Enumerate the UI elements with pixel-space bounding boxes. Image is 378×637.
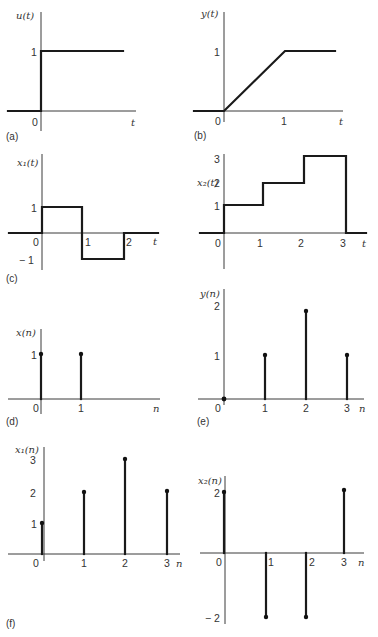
- stem-marker: [79, 352, 83, 356]
- panel-f-x2n: x₂(n) 2 − 2 0 1 2 3 n: [198, 475, 364, 624]
- stem-marker: [304, 615, 308, 619]
- signal-trace: [8, 51, 123, 111]
- y-label: u(t): [16, 10, 34, 21]
- x-tick-1: 1: [262, 402, 268, 414]
- x-tick-1: 1: [78, 402, 84, 414]
- y-label: x₁(t): [17, 157, 39, 168]
- panel-a-unit-step: u(t) 1 0 t (a): [6, 10, 136, 142]
- panel-caption: (e): [197, 416, 209, 427]
- stem-marker-n0: [222, 397, 227, 402]
- signal-trace: [200, 156, 366, 233]
- x-tick-3: 3: [164, 557, 170, 569]
- panel-caption: (d): [6, 416, 18, 427]
- x-tick-0: 0: [215, 237, 221, 249]
- y-tick-minus-1: − 1: [19, 254, 34, 266]
- x-tick-1: 1: [268, 556, 274, 568]
- signals-figure: u(t) 1 0 t (a) y(t) 1 0 1 t (b) x₁(t) 1 …: [0, 0, 378, 637]
- panel-f-x1n: x₁(n) 3 2 1 0 1 2 3 n (f): [6, 444, 182, 629]
- y-tick-2: 2: [214, 177, 220, 189]
- stem-marker: [345, 353, 349, 357]
- panel-caption: (f): [6, 618, 15, 629]
- stem-marker: [264, 615, 268, 619]
- y-tick-3: 3: [30, 454, 36, 466]
- x-tick-1: 1: [281, 115, 287, 127]
- panel-d-xn: x(n) 1 0 1 n (d): [6, 327, 160, 427]
- x-tick-2: 2: [303, 402, 309, 414]
- y-tick-1: 1: [31, 518, 37, 530]
- stem-marker: [222, 490, 226, 494]
- x-tick-1: 1: [85, 236, 91, 248]
- y-label: x(n): [16, 327, 36, 338]
- x-tick-3: 3: [344, 402, 350, 414]
- x-label: t: [362, 238, 367, 249]
- stem-marker: [123, 457, 127, 461]
- panel-c-x1t: x₁(t) 1 − 1 0 1 2 t (c): [6, 154, 158, 284]
- x-tick-0: 0: [215, 115, 221, 127]
- x-tick-3: 3: [341, 556, 347, 568]
- x-tick-0: 0: [33, 236, 39, 248]
- y-label: y(n): [199, 288, 220, 299]
- y-tick-1: 1: [214, 200, 220, 212]
- x-label: n: [358, 557, 364, 568]
- stem-marker: [263, 353, 267, 357]
- x-label: t: [131, 117, 136, 128]
- stem-marker: [165, 489, 169, 493]
- x-tick-1: 1: [81, 557, 87, 569]
- y-tick-2: 2: [214, 300, 220, 312]
- panel-caption: (a): [6, 131, 18, 142]
- x-tick-0: 0: [33, 557, 39, 569]
- y-tick-2: 2: [214, 487, 220, 499]
- x-tick-0: 0: [216, 556, 222, 568]
- y-tick-1: 1: [31, 202, 37, 214]
- y-tick-1: 1: [31, 349, 37, 361]
- panel-caption: (c): [6, 273, 18, 284]
- x-tick-0: 0: [32, 116, 38, 128]
- x-tick-2: 2: [126, 236, 132, 248]
- y-tick-1: 1: [214, 46, 220, 58]
- stem-marker: [82, 490, 86, 494]
- panel-c-x2t: x₂(t) 1 2 3 0 1 2 3 t: [197, 153, 367, 269]
- y-tick-1: 1: [214, 350, 220, 362]
- panel-b-ramp: y(t) 1 0 1 t (b): [194, 8, 344, 141]
- x-tick-0: 0: [215, 402, 221, 414]
- x-label: n: [359, 403, 365, 414]
- y-tick-minus-2: − 2: [205, 612, 220, 624]
- x-tick-2: 2: [122, 557, 128, 569]
- x-label: t: [153, 236, 158, 247]
- x-tick-2: 2: [298, 237, 304, 249]
- y-label: x₂(n): [198, 475, 222, 486]
- stem-marker: [40, 521, 44, 525]
- y-tick-1: 1: [31, 46, 37, 58]
- x-tick-2: 2: [309, 556, 315, 568]
- y-tick-2: 2: [30, 487, 36, 499]
- y-label: y(t): [200, 8, 219, 19]
- stem-marker: [342, 488, 346, 492]
- x-label: t: [339, 116, 344, 127]
- signal-trace: [194, 51, 335, 111]
- x-tick-0: 0: [33, 402, 39, 414]
- x-label: n: [153, 403, 159, 414]
- x-label: n: [176, 558, 182, 569]
- y-tick-3: 3: [214, 153, 220, 165]
- panel-caption: (b): [194, 130, 206, 141]
- x-tick-1: 1: [257, 237, 263, 249]
- panel-e-yn: y(n) 2 1 0 1 2 3 n (e): [197, 288, 365, 427]
- stem-marker: [304, 309, 308, 313]
- stem-marker: [39, 352, 43, 356]
- x-tick-3: 3: [340, 237, 346, 249]
